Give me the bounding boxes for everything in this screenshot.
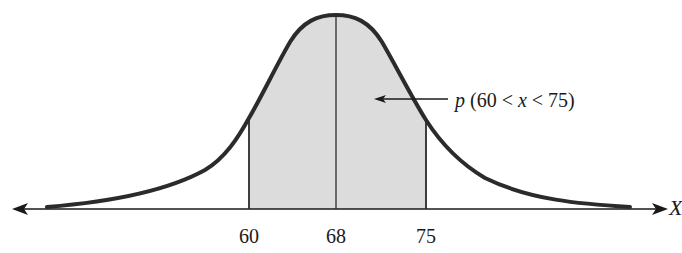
axis-variable-label: X	[669, 195, 682, 221]
annotation-variable: x	[518, 89, 527, 111]
tick-label-75: 75	[416, 224, 436, 248]
probability-annotation: p (60 < x < 75)	[455, 87, 575, 113]
probability-symbol: p	[455, 89, 465, 111]
annotation-close: < 75)	[527, 89, 575, 111]
tick-label-68: 68	[326, 224, 346, 248]
shaded-area	[249, 15, 426, 209]
annotation-open: (60 <	[465, 89, 518, 111]
tick-label-60: 60	[239, 224, 259, 248]
